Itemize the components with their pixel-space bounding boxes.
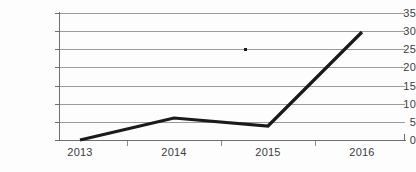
x-tick-label-2013: 2013 [45,146,115,158]
x-axis-tick [127,141,128,146]
series-polyline [80,32,362,140]
x-tick-label-2014: 2014 [139,146,209,158]
line-chart: 35 30 25 20 15 10 5 0 2013 2014 201 [0,0,416,172]
x-tick-label-2015: 2015 [233,146,303,158]
x-axis-tick [315,141,316,146]
x-tick-label-2016: 2016 [327,146,397,158]
x-axis-tick [221,141,222,146]
stray-marker-icon [244,48,247,51]
